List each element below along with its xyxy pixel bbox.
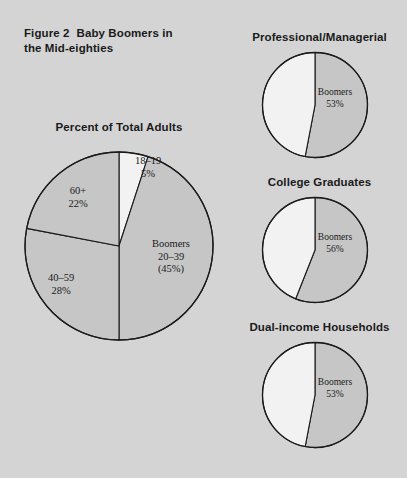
pie-label-professional: Boomers 53%: [306, 87, 364, 110]
main-pie-label-boomers: Boomers 20–39 (45%): [140, 238, 202, 276]
main-pie-label-teens-value: 5%: [141, 168, 155, 179]
pie-label-college-name: Boomers: [318, 232, 352, 242]
chart-title-professional: Professional/Managerial: [232, 31, 407, 43]
pie-label-professional-value: 53%: [326, 99, 343, 109]
chart-title-college: College Graduates: [232, 176, 407, 188]
pie-label-college: Boomers 56%: [306, 232, 364, 255]
main-pie-label-seniors-value: 22%: [68, 198, 87, 209]
main-pie-label-boomers-value: (45%): [158, 263, 184, 274]
main-pie-label-seniors: 60+ 22%: [56, 185, 100, 210]
figure-title: Figure 2Baby Boomers in the Mid-eighties: [24, 26, 234, 55]
figure-number: Figure 2: [24, 27, 70, 39]
figure-title-line2: the Mid-eighties: [24, 42, 113, 54]
main-pie-label-boomers-range: 20–39: [158, 251, 184, 262]
pie-label-dual-income-name: Boomers: [318, 377, 352, 387]
main-chart-title: Percent of Total Adults: [0, 121, 238, 133]
pie-label-professional-name: Boomers: [318, 87, 352, 97]
main-pie-label-midlife: 40–59 28%: [36, 272, 86, 297]
main-pie-label-boomers-name: Boomers: [152, 238, 190, 249]
main-pie-label-midlife-name: 40–59: [48, 272, 74, 283]
pie-label-college-value: 56%: [326, 244, 343, 254]
main-pie-label-teens: 18–19 5%: [126, 155, 170, 180]
main-pie-label-midlife-value: 28%: [51, 285, 70, 296]
figure-title-line1: Baby Boomers in: [77, 27, 173, 39]
main-pie-label-teens-name: 18–19: [135, 155, 161, 166]
figure-container: Figure 2Baby Boomers in the Mid-eighties…: [0, 0, 407, 478]
chart-title-dual-income: Dual-income Households: [232, 321, 407, 333]
pie-label-dual-income: Boomers 53%: [306, 377, 364, 400]
pie-label-dual-income-value: 53%: [326, 389, 343, 399]
main-pie-label-seniors-name: 60+: [70, 185, 86, 196]
